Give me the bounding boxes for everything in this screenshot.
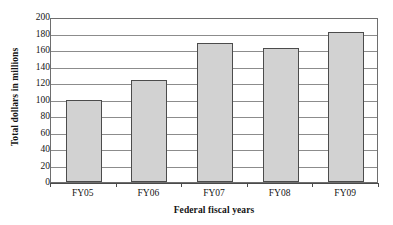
y-axis-tick-label: 200 xyxy=(6,13,50,23)
y-axis-tick-label: 60 xyxy=(6,129,50,139)
y-axis-tick-label: 120 xyxy=(6,79,50,89)
x-axis-tick-label: FY09 xyxy=(305,189,385,199)
bar-fy09 xyxy=(328,32,364,182)
x-axis-title: Federal fiscal years xyxy=(50,205,378,215)
x-axis-tick-mark xyxy=(116,183,117,187)
y-axis-tick-label: 180 xyxy=(6,30,50,40)
bar-chart-figure: Total dollars in millions 02040608010012… xyxy=(0,0,393,225)
y-axis-tick-label: 100 xyxy=(6,96,50,106)
bar-fy06 xyxy=(131,80,167,182)
y-axis-tick-label: 160 xyxy=(6,46,50,56)
y-axis-tick-label: 140 xyxy=(6,63,50,73)
bar-fy08 xyxy=(263,48,299,182)
x-axis-tick-mark xyxy=(312,183,313,187)
x-axis-tick-mark xyxy=(181,183,182,187)
y-axis-ticks: 020406080100120140160180200 xyxy=(0,18,50,183)
x-axis-tick-mark xyxy=(247,183,248,187)
y-axis-tick-label: 20 xyxy=(6,162,50,172)
y-axis-tick-label: 80 xyxy=(6,112,50,122)
y-axis-tick-label: 0 xyxy=(6,178,50,188)
x-axis-tick-mark xyxy=(50,183,51,187)
x-axis-tick-mark xyxy=(378,183,379,187)
y-axis-tick-label: 40 xyxy=(6,145,50,155)
bar-fy07 xyxy=(197,43,233,182)
plot-area xyxy=(50,18,378,183)
bar-fy05 xyxy=(66,100,102,183)
x-axis-line xyxy=(50,183,378,184)
